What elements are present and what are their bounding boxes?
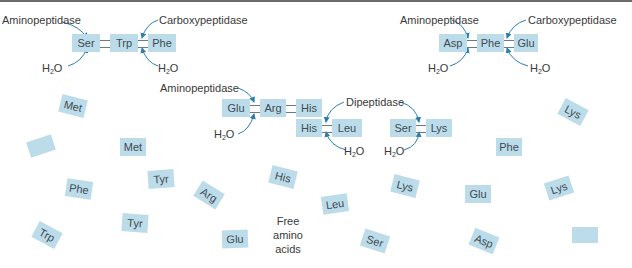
residue-box: Phe [148, 34, 176, 52]
residue-box: Leu [332, 119, 362, 137]
enzyme-label-aminopeptidase-3: Aminopeptidase [160, 82, 239, 95]
water-h: H [344, 145, 352, 157]
residue-box: His [296, 119, 322, 137]
free-amino-acid: Leu [321, 193, 349, 214]
enzyme-label-aminopeptidase-1: Aminopeptidase [2, 14, 81, 27]
arrow-water-3 [238, 114, 254, 134]
free-amino-acid: Met [120, 138, 146, 156]
water-o: O [440, 62, 449, 74]
water-label: H2O [530, 62, 550, 78]
enzyme-label-carboxypeptidase-1: Carboxypeptidase [159, 14, 248, 27]
residue-box: Trp [110, 34, 138, 52]
free-amino-acid: Phe [496, 138, 522, 156]
water-h: H [214, 128, 222, 140]
label-line: Free [268, 214, 308, 228]
free-amino-acids-label: Free amino acids [268, 214, 308, 256]
label-line: amino [268, 228, 308, 242]
free-amino-acid: Glu [465, 185, 491, 203]
residue-box: Glu [514, 34, 538, 52]
water-o: O [356, 145, 365, 157]
water-o: O [226, 128, 235, 140]
residue-box: Glu [222, 99, 250, 117]
water-h: H [384, 145, 392, 157]
water-label: H2O [42, 62, 62, 78]
water-o: O [170, 62, 179, 74]
free-amino-acid: Tyr [147, 169, 174, 189]
water-label: H2O [214, 128, 234, 144]
water-label: H2O [158, 62, 178, 78]
free-amino-acid [572, 227, 598, 243]
label-line: acids [268, 242, 308, 256]
water-h: H [428, 62, 436, 74]
water-h: H [530, 62, 538, 74]
water-o: O [54, 62, 63, 74]
water-label: H2O [384, 145, 404, 161]
water-h: H [158, 62, 166, 74]
free-amino-acid: Tyr [121, 213, 148, 233]
enzyme-label-dipeptidase: Dipeptidase [346, 96, 404, 109]
residue-box: Ser [390, 119, 416, 137]
free-amino-acid: Glu [222, 230, 249, 249]
residue-box: Asp [439, 34, 467, 52]
water-o: O [542, 62, 551, 74]
enzyme-label-carboxypeptidase-2: Carboxypeptidase [528, 14, 617, 27]
water-label: H2O [344, 145, 364, 161]
free-amino-acid: Phe [65, 178, 93, 199]
water-h: H [42, 62, 50, 74]
enzyme-label-aminopeptidase-2: Aminopeptidase [400, 14, 479, 27]
residue-box: Lys [426, 119, 452, 137]
residue-box: Phe [477, 34, 504, 52]
residue-box: His [296, 99, 322, 117]
residue-box: Ser [72, 34, 100, 52]
water-o: O [396, 145, 405, 157]
residue-box: Arg [260, 99, 286, 117]
water-label: H2O [428, 62, 448, 78]
